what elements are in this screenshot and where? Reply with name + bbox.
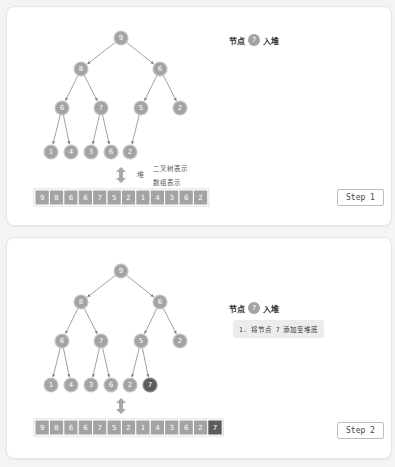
tree-edge — [142, 348, 148, 377]
arrow-head-icon — [52, 141, 55, 144]
node-value: 6 — [60, 337, 65, 345]
array-cell: 5 — [107, 190, 121, 205]
node-value: 2 — [128, 381, 132, 389]
arrow-head-icon — [146, 374, 149, 377]
array-cell-value: 8 — [54, 424, 58, 432]
array-cell: 5 — [107, 420, 121, 435]
array-cell-value: 2 — [198, 194, 202, 202]
arrow-head-icon — [92, 374, 95, 377]
arrow-head-icon — [67, 374, 70, 377]
arrow-head-icon — [107, 141, 110, 144]
array-cell-value: 7 — [98, 194, 102, 202]
tree-edge — [163, 75, 176, 101]
array-cell-value: 6 — [83, 194, 88, 202]
tree-node: 9 — [114, 31, 128, 45]
tree-node: 7 — [94, 334, 108, 348]
tree-edge — [93, 348, 100, 377]
array-cell: 7 — [208, 420, 222, 435]
node-value: 2 — [178, 337, 182, 345]
tree-node: 6 — [153, 295, 167, 309]
node-value: 3 — [89, 148, 93, 156]
array-cell-value: 7 — [98, 424, 102, 432]
step-2-panel: 98667521436279866752143627 节点 7 入堆 1. 将节… — [6, 237, 392, 459]
tree-edge — [145, 75, 157, 101]
heap-diagram: 98667521436279866752143627 — [7, 238, 391, 458]
array-cell-value: 1 — [141, 194, 145, 202]
tree-edge — [53, 115, 60, 144]
array-cell: 6 — [179, 420, 193, 435]
tree-edge — [84, 75, 97, 101]
node-value: 7 — [99, 104, 103, 112]
tree-node: 5 — [134, 334, 148, 348]
node-value: 6 — [158, 65, 163, 73]
panel-title: 节点 7 入堆 — [229, 34, 279, 46]
node-value: 8 — [79, 65, 83, 73]
node-value: 9 — [119, 34, 123, 42]
node-value: 4 — [69, 381, 74, 389]
tree-node: 6 — [153, 62, 167, 76]
array-cell-value: 9 — [40, 424, 44, 432]
tree-edge — [63, 115, 69, 144]
array-representation-label: 数组表示 — [153, 177, 181, 187]
title-suffix: 入堆 — [263, 303, 279, 314]
array-cell-value: 4 — [155, 194, 160, 202]
tree-node: 8 — [74, 295, 88, 309]
node-value: 6 — [60, 104, 65, 112]
tree-node: 2 — [173, 334, 187, 348]
array-cell-value: 6 — [69, 424, 74, 432]
node-badge: 7 — [248, 34, 260, 46]
array-cell-value: 6 — [184, 194, 189, 202]
tree-node: 6 — [104, 145, 118, 159]
array-cell-value: 3 — [170, 424, 174, 432]
array-cell: 2 — [193, 190, 207, 205]
step-description: 1. 将节点 7 添加至堆底 — [233, 320, 324, 338]
heap-diagram: 986675214362986675214362 — [7, 7, 391, 227]
array-cell: 4 — [150, 420, 164, 435]
step-button[interactable]: Step 2 — [337, 422, 384, 439]
tree-node: 5 — [134, 101, 148, 115]
array-cell: 1 — [136, 190, 150, 205]
array-cell: 1 — [136, 420, 150, 435]
tree-node: 1 — [44, 378, 58, 392]
node-value: 4 — [69, 148, 74, 156]
node-value: 6 — [109, 381, 114, 389]
tree-edge — [103, 348, 110, 377]
node-value: 5 — [139, 337, 143, 345]
tree-node: 7 — [143, 378, 157, 392]
array-cell: 8 — [49, 190, 63, 205]
tree-edge — [103, 115, 110, 144]
node-value: 1 — [49, 381, 53, 389]
array-cell-value: 2 — [126, 194, 130, 202]
node-value: 7 — [99, 337, 103, 345]
array-cell-value: 2 — [198, 424, 202, 432]
array-cell: 7 — [93, 420, 107, 435]
tree-node: 2 — [173, 101, 187, 115]
step-button[interactable]: Step 1 — [337, 189, 384, 206]
node-value: 9 — [119, 267, 123, 275]
array-cell: 2 — [121, 420, 135, 435]
array-cell: 4 — [150, 190, 164, 205]
tree-representation-label: 二叉树表示 — [153, 163, 188, 173]
tree-node: 2 — [123, 378, 137, 392]
arrow-head-icon — [92, 141, 95, 144]
tree-edge — [63, 348, 69, 377]
tree-node: 9 — [114, 264, 128, 278]
tree-edge — [132, 348, 139, 377]
array-cell-value: 7 — [213, 424, 217, 432]
panel-title: 节点 7 入堆 — [229, 302, 279, 314]
node-value: 1 — [49, 148, 53, 156]
tree-edge — [66, 75, 78, 101]
double-arrow-icon — [116, 398, 126, 414]
array-cell-value: 4 — [155, 424, 160, 432]
tree-edge — [53, 348, 60, 377]
tree-node: 2 — [123, 145, 137, 159]
double-arrow-icon — [116, 167, 126, 183]
array-cell-value: 5 — [112, 424, 116, 432]
arrow-head-icon — [131, 141, 134, 144]
arrow-head-icon — [131, 374, 134, 377]
node-value: 6 — [109, 148, 114, 156]
tree-edge — [132, 115, 139, 144]
node-badge: 7 — [248, 302, 260, 314]
tree-edge — [87, 275, 115, 297]
array-cell-value: 1 — [141, 424, 145, 432]
